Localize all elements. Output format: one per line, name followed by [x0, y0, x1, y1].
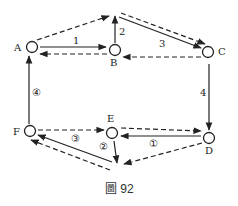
node-label-f: F — [13, 126, 20, 137]
node-label-a: A — [13, 42, 22, 53]
node-a — [27, 42, 38, 53]
edge-label-1: 1 — [73, 35, 79, 46]
node-label-b: B — [110, 57, 117, 68]
node-b — [110, 45, 121, 56]
edge-label-circled-2: ② — [99, 141, 108, 152]
node-label-c: C — [218, 46, 226, 57]
edge-label-3: 3 — [159, 38, 165, 49]
edge-label-circled-4: ④ — [32, 87, 41, 98]
edge-d-apex — [124, 143, 202, 164]
edge-e-d — [121, 128, 201, 131]
node-d — [204, 133, 215, 144]
node-label-e: E — [107, 113, 114, 124]
node-label-d: D — [205, 145, 213, 156]
edge-e-apex — [114, 141, 117, 163]
edge-label-2: 2 — [119, 26, 125, 37]
node-e — [107, 128, 118, 139]
figure-caption: 圖 92 — [105, 182, 134, 196]
edge-label-circled-1: ① — [149, 138, 158, 149]
graph-diagram: A B C D E F 1 2 3 4 ① ② ③ ④ 圖 92 — [0, 0, 238, 206]
node-c — [203, 47, 214, 58]
node-f — [25, 126, 36, 137]
edge-label-circled-3: ③ — [71, 133, 80, 144]
edge-label-4: 4 — [200, 87, 206, 98]
